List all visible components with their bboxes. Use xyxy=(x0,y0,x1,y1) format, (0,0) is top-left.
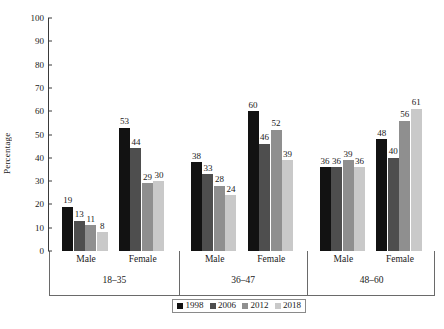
y-axis-tick-mark xyxy=(48,157,52,158)
legend-swatch-icon xyxy=(210,303,216,309)
legend-swatch-icon xyxy=(242,303,248,309)
bar xyxy=(97,232,108,251)
y-axis-tick-mark xyxy=(48,64,52,65)
bar xyxy=(411,109,422,251)
bar xyxy=(142,183,153,251)
y-axis-tick-mark xyxy=(48,181,52,182)
bar xyxy=(399,121,410,251)
group-divider xyxy=(307,251,308,295)
bar-subgroup: 48405661 xyxy=(376,18,422,251)
plot-area: 1913118534429303833282460465239363639364… xyxy=(49,18,435,251)
bar-subgroup: 1913118 xyxy=(62,18,108,251)
y-axis-tick-mark xyxy=(48,227,52,228)
sex-label: Male xyxy=(313,255,373,265)
bar-value-label: 24 xyxy=(221,185,241,194)
bar xyxy=(225,195,236,251)
y-axis-tick-label: 60 xyxy=(35,107,44,116)
y-axis-tick-label: 100 xyxy=(31,14,45,23)
bar xyxy=(354,167,365,251)
bar xyxy=(343,160,354,251)
legend-item[interactable]: 2006 xyxy=(210,301,237,310)
bar-value-label: 60 xyxy=(243,101,263,110)
legend-item[interactable]: 2012 xyxy=(242,301,269,310)
legend-item[interactable]: 2018 xyxy=(275,301,302,310)
bar xyxy=(202,174,213,251)
y-axis-tick-label: 30 xyxy=(35,177,44,186)
bar-value-label: 33 xyxy=(198,164,218,173)
sex-label: Female xyxy=(113,255,173,265)
group-divider xyxy=(179,251,180,295)
legend-item[interactable]: 1998 xyxy=(177,301,204,310)
bar-subgroup: 36363936 xyxy=(320,18,366,251)
category-label-box: MaleFemale18–35MaleFemale36–47MaleFemale… xyxy=(49,251,435,296)
bar-value-label: 30 xyxy=(149,171,169,180)
sex-label: Male xyxy=(56,255,116,265)
bar xyxy=(214,186,225,251)
legend-swatch-icon xyxy=(177,303,183,309)
y-axis-tick-label: 20 xyxy=(35,200,44,209)
bar-value-label: 48 xyxy=(372,129,392,138)
bar xyxy=(153,181,164,251)
bar xyxy=(320,167,331,251)
sex-label: Male xyxy=(185,255,245,265)
bar-chart: Percentage 0102030405060708090100 191311… xyxy=(0,0,444,329)
bar-subgroup: 53442930 xyxy=(119,18,165,251)
bar-group: 3833282460465239 xyxy=(178,18,307,251)
bar xyxy=(248,111,259,251)
bar-value-label: 44 xyxy=(126,138,146,147)
y-axis-tick-mark xyxy=(48,134,52,135)
bar-subgroup: 60465239 xyxy=(248,18,294,251)
bar-subgroup: 38332824 xyxy=(191,18,237,251)
bar-value-label: 39 xyxy=(278,150,298,159)
bar-value-label: 61 xyxy=(406,98,426,107)
y-axis-tick-label: 90 xyxy=(35,37,44,46)
legend-swatch-icon xyxy=(275,303,281,309)
legend-label: 1998 xyxy=(186,301,204,310)
y-axis-tick-mark xyxy=(48,251,52,252)
y-axis-tick-label: 80 xyxy=(35,60,44,69)
bar-group: 3636393648405661 xyxy=(306,18,435,251)
legend-label: 2012 xyxy=(251,301,269,310)
bar xyxy=(388,158,399,251)
bar-value-label: 8 xyxy=(92,222,112,231)
bar xyxy=(259,144,270,251)
bar xyxy=(271,130,282,251)
y-axis-tick-mark xyxy=(48,41,52,42)
y-axis-tick-mark xyxy=(48,18,52,19)
y-axis-tick-label: 0 xyxy=(40,247,45,256)
bar-value-label: 28 xyxy=(209,175,229,184)
y-axis-tick-label: 10 xyxy=(35,223,44,232)
y-axis-title: Percentage xyxy=(2,118,16,188)
bar-group: 191311853442930 xyxy=(49,18,178,251)
bar-value-label: 52 xyxy=(266,119,286,128)
legend-label: 2018 xyxy=(283,301,301,310)
y-axis-tick-label: 50 xyxy=(35,130,44,139)
y-axis-tick-mark xyxy=(48,111,52,112)
bar-value-label: 19 xyxy=(58,196,78,205)
bar xyxy=(74,221,85,251)
sex-label: Female xyxy=(241,255,301,265)
age-group-label: 18–35 xyxy=(74,276,154,286)
y-axis-tick-labels: 0102030405060708090100 xyxy=(18,0,48,329)
bar-value-label: 36 xyxy=(350,157,370,166)
age-group-label: 48–60 xyxy=(332,276,412,286)
age-group-label: 36–47 xyxy=(203,276,283,286)
bar xyxy=(130,148,141,251)
chart-legend: 1998200620122018 xyxy=(172,299,306,313)
bar-value-label: 38 xyxy=(186,152,206,161)
y-axis-tick-mark xyxy=(48,204,52,205)
y-axis-tick-label: 70 xyxy=(35,83,44,92)
bar xyxy=(331,167,342,251)
bar xyxy=(282,160,293,251)
bar xyxy=(191,162,202,251)
y-axis-tick-mark xyxy=(48,87,52,88)
legend-label: 2006 xyxy=(218,301,236,310)
sex-label: Female xyxy=(370,255,430,265)
y-axis-tick-label: 40 xyxy=(35,153,44,162)
bar-value-label: 53 xyxy=(114,117,134,126)
